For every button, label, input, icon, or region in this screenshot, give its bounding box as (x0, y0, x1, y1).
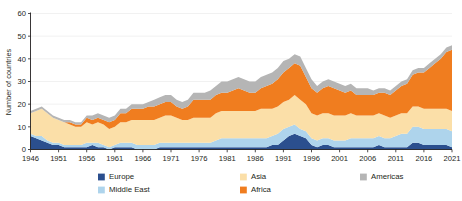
x-tick-label: 1976 (191, 154, 208, 163)
x-tick-label: 2016 (415, 154, 432, 163)
x-tick-label: 1986 (247, 154, 264, 163)
y-tick-label: 10 (18, 123, 26, 132)
legend-label-middle-east: Middle East (109, 185, 151, 194)
y-tick-label: 20 (18, 100, 26, 109)
legend-label-europe: Europe (109, 172, 134, 181)
y-tick-label: 40 (18, 55, 26, 64)
x-tick-label: 1981 (219, 154, 236, 163)
x-tick-label: 1946 (22, 154, 39, 163)
chart-legend: EuropeMiddle EastAsiaAfricaAmericas (98, 172, 404, 194)
legend-swatch-americas (360, 174, 367, 181)
legend-swatch-africa (240, 187, 247, 194)
x-tick-label: 1966 (134, 154, 151, 163)
legend-swatch-europe (98, 174, 105, 181)
y-axis-title: Number of countries (4, 48, 13, 115)
legend-label-africa: Africa (251, 185, 272, 194)
legend-swatch-middle-east (98, 187, 105, 194)
x-tick-group: 1946195119561961196619711976198119861991… (22, 150, 460, 164)
y-tick-group: 0102030405060 (18, 9, 31, 154)
legend-label-asia: Asia (251, 172, 267, 181)
x-tick-label: 2011 (388, 154, 404, 163)
area-series-group (31, 45, 453, 149)
x-tick-label: 2021 (444, 154, 461, 163)
x-tick-label: 1996 (303, 154, 320, 163)
y-tick-label: 60 (18, 9, 26, 18)
y-tick-label: 50 (18, 32, 26, 41)
legend-label-americas: Americas (371, 172, 404, 181)
x-tick-label: 1956 (78, 154, 95, 163)
x-tick-label: 1991 (275, 154, 292, 163)
legend-swatch-asia (240, 174, 247, 181)
x-tick-label: 1951 (50, 154, 67, 163)
x-tick-label: 1971 (163, 154, 180, 163)
x-tick-label: 1961 (106, 154, 123, 163)
chart-figure: 0102030405060 19461951195619611966197119… (0, 0, 462, 201)
x-tick-label: 2001 (331, 154, 348, 163)
x-tick-label: 2006 (359, 154, 376, 163)
y-tick-label: 0 (22, 145, 26, 154)
y-tick-label: 30 (18, 77, 26, 86)
stacked-area-chart: 0102030405060 19461951195619611966197119… (0, 0, 462, 201)
